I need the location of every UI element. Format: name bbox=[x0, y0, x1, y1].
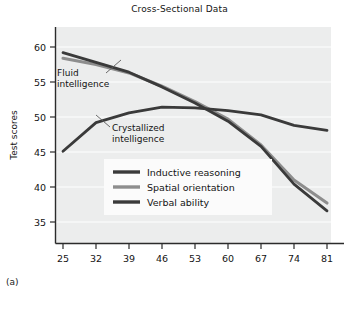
y-tick-label: 50 bbox=[34, 112, 46, 123]
x-tick-label: 25 bbox=[57, 253, 69, 264]
crystallized-annotation-line2: intelligence bbox=[112, 134, 165, 144]
figure-panel: Cross-Sectional Data bbox=[0, 0, 359, 309]
chart-legend: Inductive reasoning Spatial orientation … bbox=[104, 159, 272, 215]
x-tick-label: 81 bbox=[321, 253, 333, 264]
chart-plot-area: 60 55 50 45 40 35 Test scores bbox=[0, 0, 359, 270]
legend-label-inductive-reasoning: Inductive reasoning bbox=[147, 167, 241, 178]
legend-label-verbal-ability: Verbal ability bbox=[147, 197, 210, 208]
x-axis-tick-labels: 25 32 39 46 53 60 67 74 81 bbox=[57, 253, 333, 264]
legend-label-spatial-orientation: Spatial orientation bbox=[147, 182, 235, 193]
crystallized-annotation-line1: Crystallized bbox=[112, 123, 165, 133]
fluid-annotation-line2: intelligence bbox=[57, 79, 110, 89]
y-axis-ticks bbox=[50, 47, 56, 222]
x-tick-label: 46 bbox=[156, 253, 168, 264]
panel-label: (a) bbox=[6, 277, 19, 287]
x-tick-label: 32 bbox=[90, 253, 102, 264]
y-tick-label: 40 bbox=[34, 182, 46, 193]
x-tick-label: 39 bbox=[123, 253, 135, 264]
y-tick-label: 60 bbox=[34, 42, 46, 53]
y-axis-title: Test scores bbox=[9, 110, 19, 161]
fluid-annotation-line1: Fluid bbox=[57, 68, 79, 78]
x-axis-ticks bbox=[63, 244, 327, 250]
y-axis-tick-labels: 60 55 50 45 40 35 bbox=[34, 42, 46, 228]
x-tick-label: 60 bbox=[222, 253, 234, 264]
y-tick-label: 45 bbox=[34, 147, 46, 158]
chart-svg: 60 55 50 45 40 35 Test scores bbox=[0, 0, 359, 270]
x-tick-label: 53 bbox=[189, 253, 201, 264]
x-tick-label: 74 bbox=[288, 253, 300, 264]
x-tick-label: 67 bbox=[255, 253, 267, 264]
y-tick-label: 35 bbox=[34, 217, 46, 228]
y-tick-label: 55 bbox=[34, 77, 46, 88]
